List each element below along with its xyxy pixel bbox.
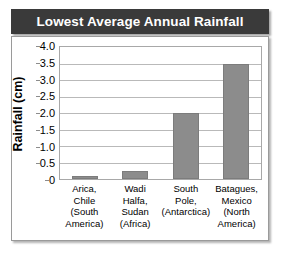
bar-slot	[60, 47, 110, 179]
y-axis-tick-label: 3.5	[40, 57, 55, 69]
x-axis-label-line: America)	[60, 218, 109, 230]
rainfall-bar-chart-figure: Lowest Average Annual Rainfall Rainfall …	[0, 0, 285, 254]
y-axis-tick-mark	[36, 113, 40, 114]
bar	[223, 64, 249, 180]
x-axis-label-line: (Antarctica)	[162, 206, 211, 218]
y-axis-title: Rainfall (cm)	[8, 51, 28, 177]
bar	[72, 176, 98, 179]
y-axis-tick-label: 0.5	[40, 157, 55, 169]
x-axis-category-labels: Arica,Chile(SouthAmerica)WadiHalfa,Sudan…	[59, 183, 262, 229]
y-axis-tick-label: 2.5	[40, 90, 55, 102]
x-axis-label-line: America)	[212, 218, 261, 230]
bar-slot	[110, 47, 160, 179]
x-axis-category-label: SouthPole,(Antarctica)	[161, 183, 212, 229]
y-axis-tick-mark	[36, 63, 40, 64]
x-axis-label-line: Halfa,	[111, 195, 160, 207]
y-axis-tick-mark	[36, 80, 40, 81]
x-axis-label-line: (North	[212, 206, 261, 218]
y-axis-tick-label: 1.5	[40, 124, 55, 136]
x-axis-label-line: Arica,	[60, 183, 109, 195]
bar-slot	[161, 47, 211, 179]
x-axis-category-label: WadiHalfa,Sudan(Africa)	[110, 183, 161, 229]
y-axis-tick-mark	[36, 46, 40, 47]
x-axis-label-line: (South	[60, 206, 109, 218]
y-axis-tick-label: 2.0	[40, 107, 55, 119]
y-axis-tick-mark	[36, 130, 40, 131]
x-axis-label-line: South	[162, 183, 211, 195]
x-axis-category-label: Batagues,Mexico(NorthAmerica)	[211, 183, 262, 229]
x-axis-label-line: Wadi	[111, 183, 160, 195]
x-axis-label-line: Pole,	[162, 195, 211, 207]
y-axis-tick-label: 4.0	[40, 40, 55, 52]
y-axis-tick-mark	[36, 147, 40, 148]
y-axis-tick-mark	[36, 163, 40, 164]
y-axis-tick-mark	[45, 180, 49, 181]
x-axis-label-line: Batagues,	[212, 183, 261, 195]
y-axis-tick-label: 3.0	[40, 74, 55, 86]
page-title: Lowest Average Annual Rainfall	[36, 14, 243, 29]
chart-frame: Rainfall (cm) 4.03.53.02.52.01.51.00.50 …	[11, 36, 269, 241]
x-axis-category-label: Arica,Chile(SouthAmerica)	[59, 183, 110, 229]
plot-wrapper: 4.03.53.02.52.01.51.00.50	[59, 46, 262, 180]
plot-area	[59, 46, 262, 180]
bars-group	[60, 47, 261, 179]
x-axis-label-line: Sudan	[111, 206, 160, 218]
y-axis-tick-labels: 4.03.53.02.52.01.51.00.50	[27, 46, 55, 180]
bar	[122, 171, 148, 179]
bar	[173, 113, 199, 179]
y-axis-tick-mark	[36, 96, 40, 97]
y-axis-tick-label: 0	[49, 174, 55, 186]
x-axis-label-line: Mexico	[212, 195, 261, 207]
bar-slot	[211, 47, 261, 179]
y-axis-tick-label: 1.0	[40, 141, 55, 153]
x-axis-label-line: Chile	[60, 195, 109, 207]
chart-title-banner: Lowest Average Annual Rainfall	[11, 9, 269, 34]
x-axis-label-line: (Africa)	[111, 218, 160, 230]
